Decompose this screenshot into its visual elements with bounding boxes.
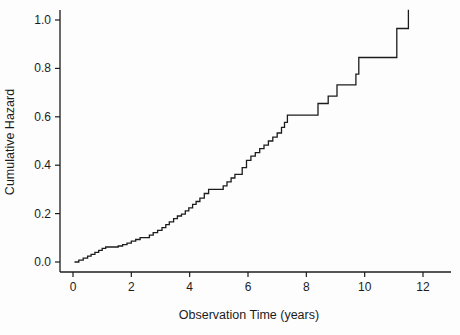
x-tick-label: 6 xyxy=(245,280,252,294)
tick-layer: 0246810120.00.20.40.60.81.0 xyxy=(34,13,430,294)
y-tick-label: 0.6 xyxy=(34,110,51,124)
x-tick-label: 2 xyxy=(128,280,135,294)
x-tick-label: 8 xyxy=(303,280,310,294)
x-tick-label: 10 xyxy=(358,280,372,294)
hazard-step-line xyxy=(75,10,409,262)
y-tick-label: 0.4 xyxy=(34,158,51,172)
x-axis-label: Observation Time (years) xyxy=(179,308,319,322)
chart-canvas: 0246810120.00.20.40.60.81.0 Cumulative H… xyxy=(0,0,460,335)
y-tick-label: 0.2 xyxy=(34,207,51,221)
x-tick-label: 4 xyxy=(186,280,193,294)
y-tick-label: 1.0 xyxy=(34,13,51,27)
y-tick-label: 0.0 xyxy=(34,255,51,269)
axes-layer xyxy=(60,10,451,272)
y-tick-label: 0.8 xyxy=(34,61,51,75)
x-tick-label: 12 xyxy=(416,280,430,294)
y-axis-label: Cumulative Hazard xyxy=(3,89,17,195)
cumulative-hazard-figure: 0246810120.00.20.40.60.81.0 Cumulative H… xyxy=(0,0,460,335)
x-tick-label: 0 xyxy=(70,280,77,294)
